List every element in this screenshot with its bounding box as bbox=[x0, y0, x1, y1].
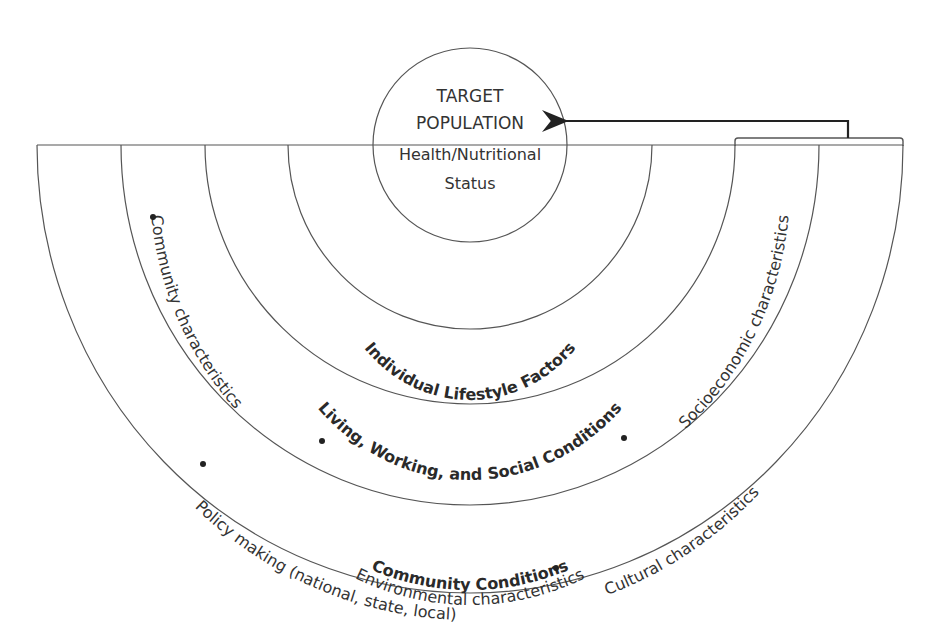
center-subtitle-line2: Status bbox=[445, 174, 496, 193]
center-subtitle-line1: Health/Nutritional bbox=[399, 145, 541, 164]
item-cultural-characteristics: Cultural characteristics bbox=[602, 482, 763, 599]
center-title-line2: POPULATION bbox=[416, 113, 524, 133]
item-community-characteristics: Community characteristics bbox=[147, 214, 246, 412]
ring-background-conditions bbox=[37, 145, 903, 593]
bullet-community-characteristics bbox=[150, 214, 156, 220]
bullet-cultural bbox=[553, 565, 559, 571]
layer-label-living-working-social: Living, Working, and Social Conditions bbox=[315, 398, 626, 484]
feedback-arrow bbox=[564, 121, 848, 138]
ring-individual-lifestyle bbox=[288, 145, 652, 329]
item-policy-making: Policy making (national, state, local) bbox=[192, 496, 457, 623]
bullet-environmental bbox=[319, 438, 325, 444]
ring-community-conditions bbox=[121, 145, 819, 505]
bullet-policy-making bbox=[200, 461, 206, 467]
item-socioeconomic-characteristics: Socioeconomic characteristics bbox=[675, 214, 793, 432]
bullet-socioeconomic bbox=[621, 435, 627, 441]
nested-determinants-diagram: TARGET POPULATION Health/Nutritional Sta… bbox=[0, 0, 938, 624]
layer-label-individual-lifestyle: Individual Lifestyle Factors bbox=[361, 338, 579, 404]
center-title-line1: TARGET bbox=[436, 86, 504, 106]
